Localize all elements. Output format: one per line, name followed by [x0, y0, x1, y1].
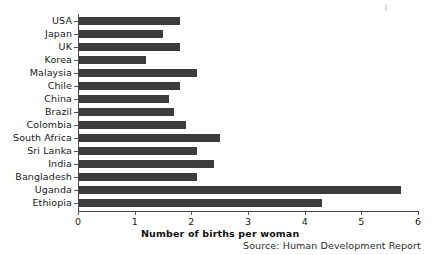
category-label: Colombia [0, 120, 72, 130]
bar-row: China [0, 93, 441, 106]
bar [78, 95, 169, 103]
category-label-cell: Uganda [0, 184, 72, 197]
bar [78, 147, 197, 155]
x-axis-title: Number of births per woman [141, 228, 299, 239]
x-axis-tick-label: 0 [68, 216, 88, 227]
bar-row: Bangladesh [0, 171, 441, 184]
category-label-cell: Chile [0, 80, 72, 93]
bar-row: Japan [0, 28, 441, 41]
bar [78, 121, 186, 129]
x-axis-tick-label: 3 [238, 216, 258, 227]
category-label-cell: South Africa [0, 132, 72, 145]
bar [78, 30, 163, 38]
category-label-cell: Korea [0, 54, 72, 67]
y-axis-line [78, 14, 79, 211]
x-axis-tick [305, 211, 306, 215]
x-axis-tick [191, 211, 192, 215]
category-label: Bangladesh [0, 172, 72, 182]
category-label-cell: Colombia [0, 119, 72, 132]
bar-row: South Africa [0, 132, 441, 145]
category-label: Korea [0, 55, 72, 65]
bar [78, 173, 197, 181]
bar-row: UK [0, 41, 441, 54]
category-label: India [0, 159, 72, 169]
category-label: Malaysia [0, 68, 72, 78]
bar-row: Korea [0, 54, 441, 67]
bar [78, 134, 220, 142]
category-label: Uganda [0, 185, 72, 195]
category-label: USA [0, 16, 72, 26]
category-label-cell: Bangladesh [0, 171, 72, 184]
category-label: Japan [0, 29, 72, 39]
category-label-cell: Brazil [0, 106, 72, 119]
bar-row: India [0, 158, 441, 171]
category-label-cell: India [0, 158, 72, 171]
category-label: China [0, 94, 72, 104]
bar [78, 160, 214, 168]
category-label-cell: USA [0, 15, 72, 28]
bar [78, 69, 197, 77]
category-label-cell: Japan [0, 28, 72, 41]
bar-row: Brazil [0, 106, 441, 119]
bar-row: Uganda [0, 184, 441, 197]
category-label-cell: Sri Lanka [0, 145, 72, 158]
bar-row: Chile [0, 80, 441, 93]
category-label-cell: UK [0, 41, 72, 54]
x-axis-tick [418, 211, 419, 215]
x-axis-tick-label: 6 [408, 216, 428, 227]
category-label-cell: Malaysia [0, 67, 72, 80]
x-axis-tick-label: 1 [125, 216, 145, 227]
bar [78, 199, 322, 207]
bar [78, 108, 174, 116]
x-axis-tick-label: 4 [295, 216, 315, 227]
x-axis-tick [361, 211, 362, 215]
category-label: Ethiopia [0, 198, 72, 208]
x-axis-tick-label: 2 [181, 216, 201, 227]
bar-row: Sri Lanka [0, 145, 441, 158]
x-axis-tick [135, 211, 136, 215]
chart-screenshot: USAJapanUKKoreaMalaysiaChileChinaBrazilC… [0, 0, 441, 255]
bar-row: Malaysia [0, 67, 441, 80]
bar [78, 82, 180, 90]
bar-row: USA [0, 15, 441, 28]
category-label: Chile [0, 81, 72, 91]
bar [78, 186, 401, 194]
x-axis-tick-label: 5 [351, 216, 371, 227]
category-label-cell: China [0, 93, 72, 106]
category-label: Sri Lanka [0, 146, 72, 156]
source-note: Source: Human Development Report [243, 240, 421, 251]
x-axis-tick [78, 211, 79, 215]
bar [78, 56, 146, 64]
bar-row: Colombia [0, 119, 441, 132]
category-label: South Africa [0, 133, 72, 143]
bar-row: Ethiopia [0, 197, 441, 210]
category-label: Brazil [0, 107, 72, 117]
category-label: UK [0, 42, 72, 52]
bar [78, 43, 180, 51]
x-axis-tick [248, 211, 249, 215]
bar [78, 17, 180, 25]
category-label-cell: Ethiopia [0, 197, 72, 210]
bar-chart: USAJapanUKKoreaMalaysiaChileChinaBrazilC… [0, 0, 441, 255]
